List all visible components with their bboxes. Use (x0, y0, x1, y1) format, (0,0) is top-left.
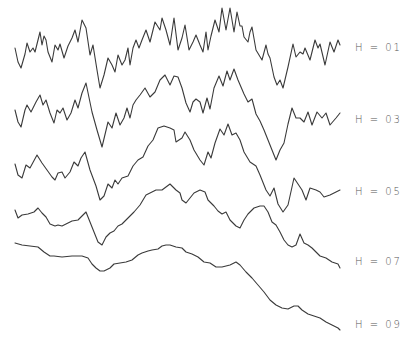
label-h03: H = 03 (355, 114, 402, 125)
curve-h07 (15, 184, 340, 268)
label-h05: H = 05 (355, 186, 402, 197)
curve-h09 (15, 243, 340, 330)
label-h09: H = 09 (355, 319, 402, 330)
curve-h03 (15, 69, 340, 160)
curve-h01 (15, 8, 340, 88)
curve-h05 (15, 124, 340, 212)
label-h07: H = 07 (355, 256, 402, 267)
label-h01: H = 01 (355, 42, 402, 53)
fbm-chart (0, 0, 411, 346)
